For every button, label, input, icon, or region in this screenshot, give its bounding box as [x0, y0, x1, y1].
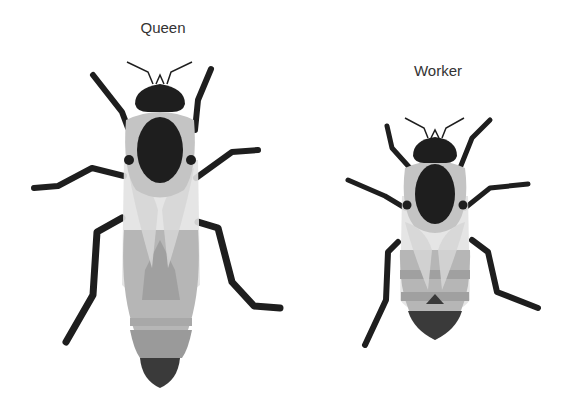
queen-head	[135, 84, 185, 112]
queen-thorax	[137, 117, 183, 183]
worker-thorax	[415, 164, 455, 224]
worker-antennae	[405, 118, 464, 138]
bee-castes-illustration	[0, 0, 577, 406]
worker-head	[413, 137, 457, 163]
queen-antennae	[127, 62, 192, 84]
worker-bee	[348, 118, 538, 345]
worker-abdomen	[400, 250, 470, 340]
queen-abdomen	[123, 230, 199, 388]
queen-bee	[34, 62, 280, 388]
